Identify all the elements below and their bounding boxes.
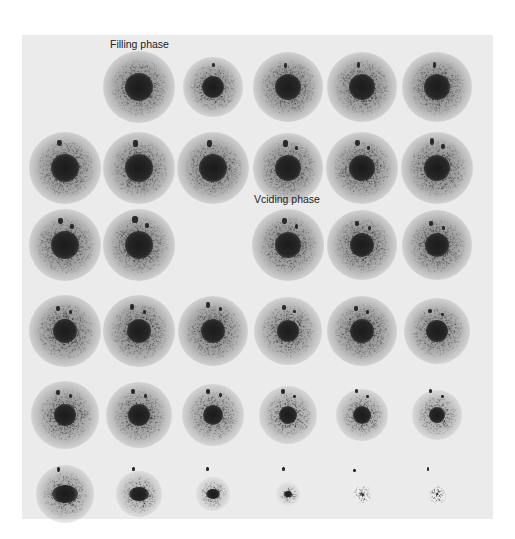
renal-uptake-spot (282, 467, 285, 471)
renal-uptake-spot (219, 307, 222, 311)
bladder-activity (53, 319, 77, 343)
renal-uptake-spot (429, 389, 432, 393)
renal-uptake-spot (144, 394, 147, 398)
renal-uptake-spot (433, 62, 436, 68)
renal-uptake-spot (207, 140, 212, 147)
renal-uptake-spot (282, 218, 287, 224)
renal-uptake-spot (57, 140, 62, 146)
renal-uptake-spot (366, 395, 369, 398)
bladder-activity (54, 404, 76, 426)
renal-uptake-spot (58, 218, 63, 224)
renal-uptake-spot (357, 62, 360, 68)
renal-uptake-spot (206, 302, 210, 308)
bladder-activity (349, 74, 375, 100)
renal-uptake-spot (130, 304, 134, 310)
bladder-activity (125, 231, 153, 259)
renal-uptake-spot (212, 63, 215, 67)
renal-uptake-spot (430, 138, 434, 145)
bladder-activity (203, 405, 223, 425)
bladder-activity (125, 154, 153, 182)
renal-uptake-spot (441, 395, 444, 398)
renal-uptake-spot (145, 223, 149, 228)
renal-uptake-spot (427, 467, 429, 471)
bladder-activity (51, 154, 79, 182)
renal-uptake-spot (219, 393, 222, 397)
bladder-activity (353, 406, 371, 424)
bladder-activity (51, 231, 79, 259)
renal-uptake-spot (69, 394, 72, 398)
renal-uptake-spot (282, 305, 286, 310)
renal-uptake-spot (355, 389, 358, 393)
bladder-activity (128, 404, 150, 426)
renal-uptake-spot (295, 146, 298, 150)
renal-uptake-spot (131, 389, 135, 394)
renal-uptake-spot (366, 310, 369, 314)
renal-uptake-spot (70, 224, 74, 229)
renal-uptake-spot (69, 310, 72, 314)
bladder-activity (201, 319, 225, 343)
bladder-activity (275, 232, 301, 258)
bladder-activity (425, 233, 449, 257)
scintigraphy-panel: Filling phase Vciding phase (22, 35, 493, 519)
bladder-activity (429, 407, 445, 423)
renal-uptake-spot (283, 140, 288, 147)
renal-uptake-spot (132, 467, 135, 471)
bladder-activity (424, 155, 450, 181)
bladder-activity (349, 155, 375, 181)
renal-uptake-spot (368, 226, 371, 230)
renal-uptake-spot (355, 140, 360, 146)
renal-uptake-spot (355, 221, 359, 226)
bladder-activity (127, 319, 151, 343)
bladder-activity (426, 320, 448, 342)
bladder-activity (199, 154, 227, 182)
renal-uptake-spot (206, 389, 210, 394)
bladder-activity (52, 485, 77, 503)
renal-uptake-spot (293, 310, 296, 313)
renal-uptake-spot (293, 395, 296, 398)
bladder-activity (206, 489, 220, 499)
renal-uptake-spot (56, 390, 60, 395)
renal-uptake-spot (354, 306, 358, 311)
renal-uptake-spot (132, 216, 138, 223)
renal-uptake-spot (367, 146, 370, 150)
bladder-activity (125, 73, 153, 101)
bladder-activity (350, 233, 374, 257)
renal-uptake-spot (143, 310, 146, 314)
renal-uptake-spot (56, 306, 60, 311)
renal-uptake-spot (353, 469, 356, 472)
bladder-activity (275, 74, 301, 100)
renal-uptake-spot (281, 389, 285, 394)
bladder-activity (279, 406, 297, 424)
renal-uptake-spot (57, 467, 60, 472)
bladder-activity (424, 74, 450, 100)
bladder-activity (277, 320, 299, 342)
bladder-activity (129, 487, 149, 501)
bladder-activity (202, 76, 224, 98)
renal-uptake-spot (284, 63, 287, 68)
filling-phase-label: Filling phase (110, 38, 169, 50)
renal-uptake-spot (429, 221, 433, 226)
bladder-activity (350, 319, 374, 343)
renal-uptake-spot (206, 467, 209, 471)
renal-uptake-spot (442, 226, 445, 230)
renal-uptake-spot (295, 224, 298, 229)
renal-uptake-spot (133, 140, 138, 147)
renal-uptake-spot (441, 313, 444, 316)
renal-uptake-spot (441, 144, 445, 149)
bladder-activity (275, 155, 301, 181)
renal-uptake-spot (428, 309, 432, 313)
